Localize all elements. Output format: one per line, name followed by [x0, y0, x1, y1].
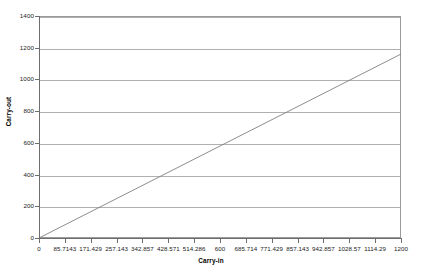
x-axis-tick	[349, 239, 350, 243]
y-axis-tick	[35, 48, 40, 49]
y-axis-label: 600	[2, 140, 34, 146]
x-axis-label: 1200	[394, 245, 408, 252]
x-axis-label: 85.7143	[54, 245, 77, 252]
x-axis-tick	[117, 239, 118, 243]
y-axis-label: 1000	[2, 76, 34, 82]
y-axis-title: Carry-out	[5, 84, 12, 140]
x-axis-tick	[323, 239, 324, 243]
x-axis-label: 942.857	[312, 245, 335, 252]
x-axis-tick	[142, 239, 143, 243]
x-axis-label: 171.429	[79, 245, 102, 252]
x-axis-tick	[168, 239, 169, 243]
x-axis-tick	[65, 239, 66, 243]
x-axis-label: 857.143	[286, 245, 309, 252]
y-axis-tick	[35, 16, 40, 17]
y-axis-tick	[35, 175, 40, 176]
y-axis-label: 1400	[2, 13, 34, 19]
y-axis-label: 400	[2, 172, 34, 178]
x-axis-label: 257.143	[105, 245, 128, 252]
y-axis-tick	[35, 206, 40, 207]
x-axis-label: 771.429	[260, 245, 283, 252]
x-axis-label: 685.714	[235, 245, 258, 252]
y-axis-tick	[35, 143, 40, 144]
x-axis-tick	[272, 239, 273, 243]
line-chart: 1400 1200 1000 800 600 400 200 0 Carry-o…	[0, 0, 422, 274]
x-axis-tick	[298, 239, 299, 243]
series-line-carry-out	[39, 16, 401, 238]
x-axis-tick	[220, 239, 221, 243]
x-axis-label: 514.286	[183, 245, 206, 252]
x-axis-tick	[401, 239, 402, 243]
x-axis-tick	[39, 239, 40, 243]
x-axis-tick	[246, 239, 247, 243]
x-axis-label: 428.571	[157, 245, 180, 252]
y-axis-tick	[35, 111, 40, 112]
x-axis-label: 0	[37, 245, 41, 252]
x-axis-label: 342.857	[131, 245, 154, 252]
x-axis-tick	[194, 239, 195, 243]
x-axis-label: 1028.57	[338, 245, 361, 252]
y-axis-label: 1200	[2, 45, 34, 51]
y-axis-label: 200	[2, 203, 34, 209]
y-axis-tick	[35, 79, 40, 80]
x-axis-tick	[375, 239, 376, 243]
x-axis-label: 600	[215, 245, 225, 252]
y-axis-label: 0	[2, 235, 34, 241]
x-axis-label: 1114.29	[364, 245, 386, 252]
x-axis-tick	[91, 239, 92, 243]
x-axis-title: Carry-in	[0, 257, 422, 264]
